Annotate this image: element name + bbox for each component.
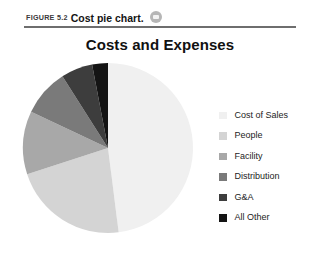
legend-item-label: People xyxy=(235,131,263,140)
legend-item[interactable]: People xyxy=(219,126,319,147)
figure-caption-title: Cost pie chart. xyxy=(71,12,144,24)
legend-swatch-icon xyxy=(219,153,227,161)
legend-swatch-icon xyxy=(219,112,227,120)
legend-item[interactable]: All Other xyxy=(219,208,319,229)
figure-caption-bar: FIGURE 5.2Cost pie chart. xyxy=(0,0,320,28)
legend-item[interactable]: G&A xyxy=(219,187,319,208)
pie-slice xyxy=(108,63,193,232)
figure-number-label: FIGURE 5.2 xyxy=(26,13,68,22)
pie-chart-svg xyxy=(22,62,208,252)
legend-item-label: Distribution xyxy=(235,172,280,181)
legend-item[interactable]: Facility xyxy=(219,146,319,167)
legend-item[interactable]: Distribution xyxy=(219,167,319,188)
legend-item[interactable]: Cost of Sales xyxy=(219,105,319,126)
pie-chart xyxy=(22,62,208,252)
legend-item-label: Facility xyxy=(235,152,263,161)
legend-swatch-icon xyxy=(219,194,227,202)
pie-slice-group xyxy=(23,63,193,233)
legend-swatch-icon xyxy=(219,173,227,181)
legend-swatch-icon xyxy=(219,132,227,140)
figure-caption: FIGURE 5.2Cost pie chart. xyxy=(26,9,162,25)
legend-swatch-icon xyxy=(219,214,227,222)
legend-item-label: Cost of Sales xyxy=(235,111,289,120)
legend-item-label: All Other xyxy=(235,213,270,222)
media-badge-icon[interactable] xyxy=(150,11,162,23)
chart-legend: Cost of SalesPeopleFacilityDistributionG… xyxy=(219,105,319,228)
caption-divider xyxy=(24,26,296,28)
chart-title: Costs and Expenses xyxy=(0,36,320,53)
legend-item-label: G&A xyxy=(235,193,254,202)
